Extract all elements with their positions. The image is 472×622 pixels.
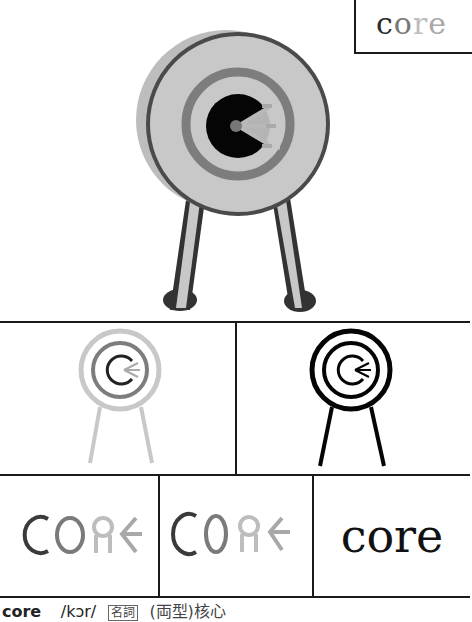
logotype-style3: core bbox=[314, 476, 470, 596]
entry-word: core bbox=[2, 602, 41, 621]
target-icon-black bbox=[236, 323, 470, 473]
entry-definition: (両型)核心 bbox=[149, 602, 225, 621]
logotype-serif-text: core bbox=[341, 509, 444, 563]
target-icon-gray bbox=[0, 323, 235, 473]
entry-pronunciation: /kɔr/ bbox=[61, 602, 96, 621]
logotype-style1 bbox=[0, 476, 158, 596]
target-illustration-main bbox=[0, 0, 470, 320]
logotype-style2 bbox=[160, 476, 312, 596]
entry-part-of-speech: 名詞 bbox=[108, 605, 138, 621]
dictionary-entry: core /kɔr/ 名詞 (両型)核心 bbox=[2, 598, 226, 622]
